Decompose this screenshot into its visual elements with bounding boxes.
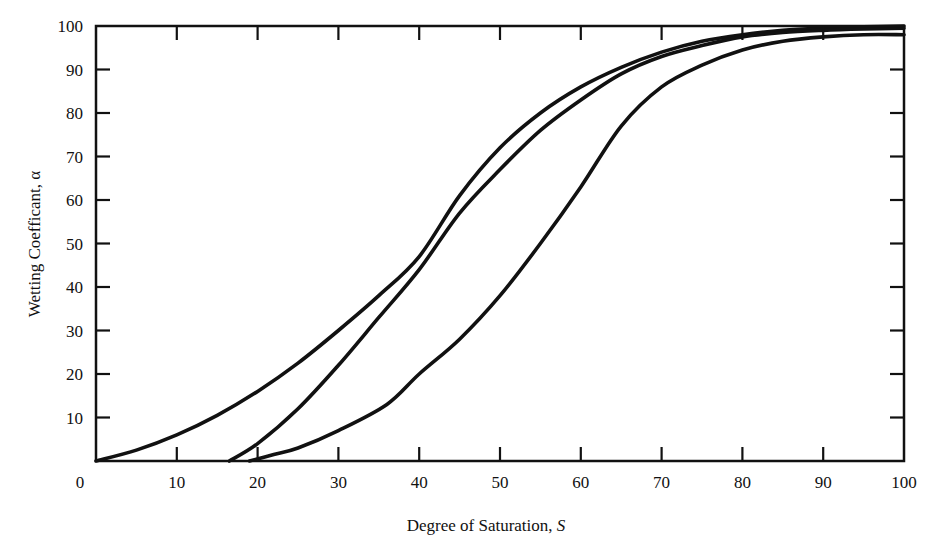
x-tick-label: 10 [168,473,185,492]
x-tick-label: 0 [76,473,85,492]
x-tick-label: 80 [734,473,751,492]
y-tick-label: 50 [66,235,83,254]
x-tick-label: 20 [249,473,266,492]
y-tick-label: 100 [58,17,84,36]
x-tick-label: 40 [411,473,428,492]
y-tick-label: 70 [66,148,83,167]
x-tick-label: 100 [891,473,917,492]
x-axis-title-text: Degree of Saturation, [407,516,557,535]
axis-ticks [96,26,904,461]
curve-3 [250,35,904,461]
x-tick-labels: 0102030405060708090100 [76,473,917,492]
data-curves [96,26,904,461]
y-tick-label: 40 [66,278,83,297]
y-axis-title: Wetting Coefficant, α [25,171,44,318]
curve-1 [96,26,904,461]
x-tick-label: 70 [653,473,670,492]
x-axis-variable: S [557,516,566,535]
y-tick-label: 60 [66,191,83,210]
wetting-coefficient-chart: 0102030405060708090100 10203040506070809… [0,0,936,546]
y-tick-label: 20 [66,365,83,384]
y-tick-label: 80 [66,104,83,123]
y-tick-label: 90 [66,61,83,80]
curve-2 [229,28,904,461]
y-tick-labels: 102030405060708090100 [58,17,84,428]
x-tick-label: 30 [330,473,347,492]
x-tick-label: 90 [815,473,832,492]
x-tick-label: 60 [572,473,589,492]
y-tick-label: 30 [66,322,83,341]
plot-frame [96,26,904,461]
x-axis-title: Degree of Saturation, S [407,516,566,535]
y-tick-label: 10 [66,409,83,428]
x-tick-label: 50 [492,473,509,492]
